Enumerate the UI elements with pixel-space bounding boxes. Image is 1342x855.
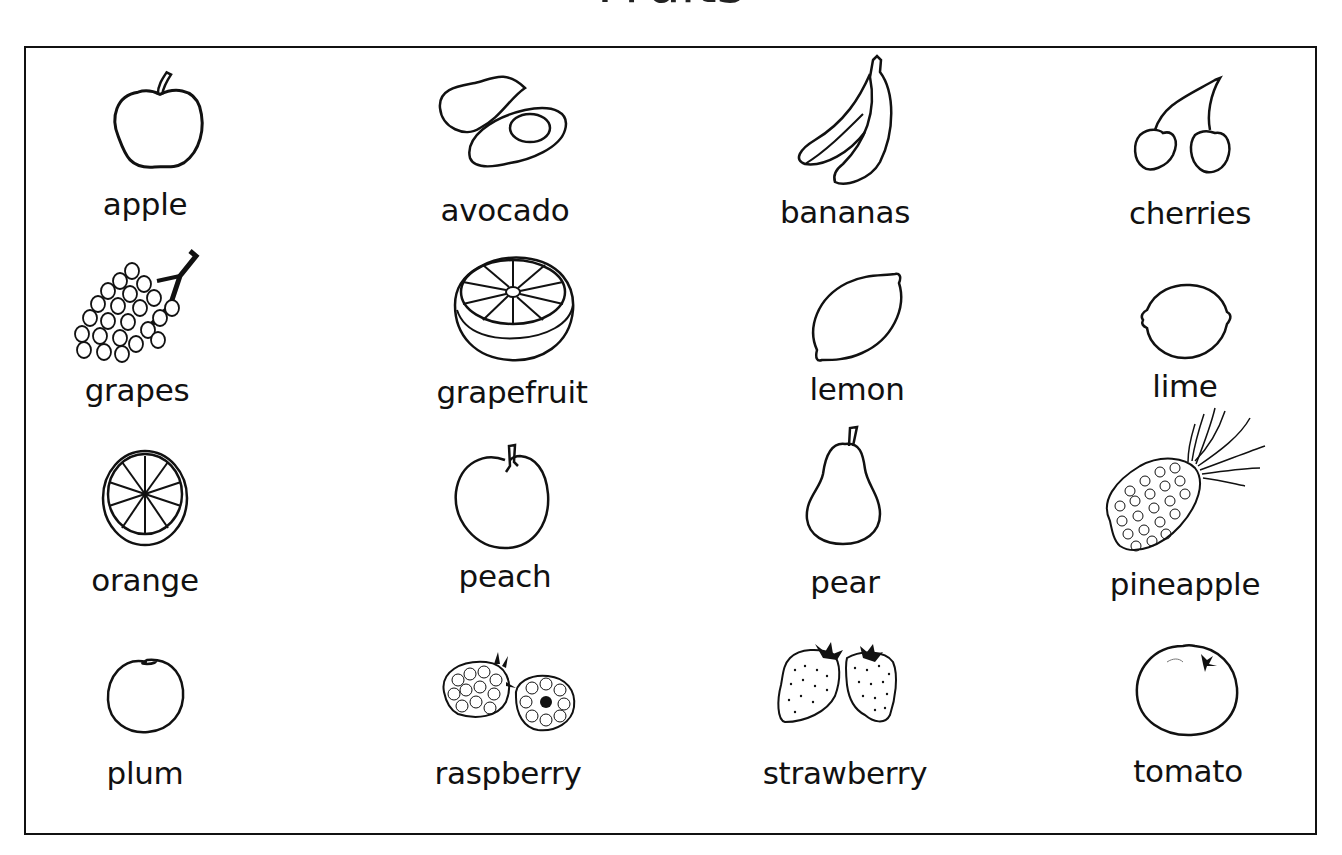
fruit-card-peach: peach (375, 442, 635, 602)
page-title: Fruits (0, 0, 1342, 14)
fruit-card-strawberry: strawberry (715, 640, 975, 800)
tomato-icon (1133, 640, 1243, 740)
fruit-card-grapefruit: grapefruit (382, 250, 642, 420)
fruit-card-grapes: grapes (7, 246, 267, 416)
fruit-card-cherries: cherries (1060, 75, 1320, 235)
grapefruit-icon (445, 250, 580, 370)
fruit-label: tomato (1058, 753, 1318, 789)
cherries-icon (1125, 75, 1255, 185)
fruit-label: pineapple (1055, 566, 1315, 602)
pear-icon (805, 424, 885, 544)
fruit-card-bananas: bananas (715, 52, 975, 232)
strawberry-icon (775, 640, 915, 725)
lemon-icon (807, 268, 907, 363)
orange-icon (98, 448, 193, 548)
fruit-label: strawberry (715, 755, 975, 791)
fruit-label: lemon (727, 371, 987, 407)
fruit-card-orange: orange (15, 448, 275, 608)
fruit-card-avocado: avocado (375, 68, 635, 228)
bananas-icon (785, 52, 905, 192)
fruit-label: bananas (715, 194, 975, 230)
fruit-card-plum: plum (15, 652, 275, 802)
fruit-label: lime (1055, 368, 1315, 404)
peach-icon (450, 442, 560, 552)
fruit-card-pineapple: pineapple (1055, 406, 1315, 616)
fruit-card-apple: apple (15, 68, 275, 228)
grapes-icon (72, 246, 202, 371)
fruit-label: pear (715, 564, 975, 600)
fruit-card-raspberry: raspberry (378, 652, 638, 802)
pineapple-icon (1100, 406, 1270, 561)
raspberry-icon (436, 652, 581, 732)
fruit-card-lemon: lemon (727, 268, 987, 418)
apple-icon (105, 68, 215, 178)
fruit-label: peach (375, 558, 635, 594)
fruit-card-tomato: tomato (1058, 640, 1318, 800)
avocado-icon (430, 68, 580, 178)
fruit-card-pear: pear (715, 424, 975, 609)
fruit-card-lime: lime (1055, 282, 1315, 412)
fruit-label: avocado (375, 192, 635, 228)
fruit-label: orange (15, 562, 275, 598)
fruit-label: cherries (1060, 195, 1320, 231)
lime-icon (1135, 282, 1235, 362)
plum-icon (103, 652, 188, 737)
fruit-label: plum (15, 755, 275, 791)
fruit-label: grapefruit (382, 374, 642, 410)
fruit-label: apple (15, 186, 275, 222)
fruit-label: grapes (7, 372, 267, 408)
fruit-label: raspberry (378, 755, 638, 791)
